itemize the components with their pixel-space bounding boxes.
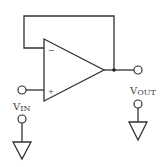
output-ground-symbol bbox=[129, 100, 147, 140]
vin-label: VIN bbox=[12, 101, 30, 113]
input-ground-symbol bbox=[13, 115, 31, 159]
vout-label: VOUT bbox=[129, 85, 157, 97]
output-terminal bbox=[134, 66, 142, 74]
feedback-wire bbox=[24, 16, 114, 70]
circuit-diagram: − + VIN VOUT bbox=[0, 0, 167, 167]
output-junction-dot bbox=[112, 68, 116, 72]
inverting-input-symbol: − bbox=[48, 46, 55, 55]
input-terminal bbox=[18, 86, 26, 94]
noninverting-input-symbol: + bbox=[48, 88, 54, 96]
